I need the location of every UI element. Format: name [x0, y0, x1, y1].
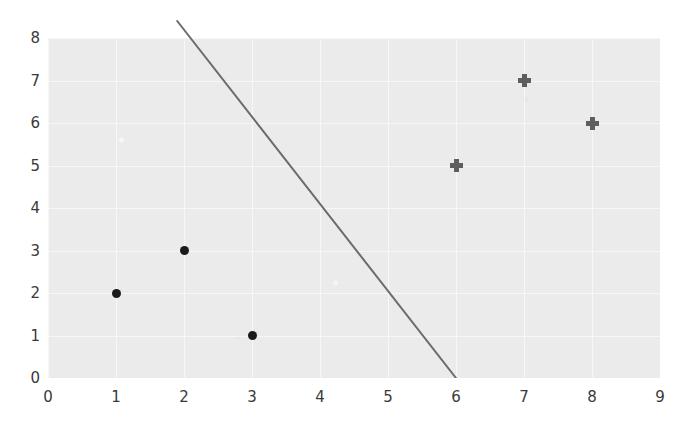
- x-tick-label: 0: [43, 390, 53, 405]
- gridline-vertical: [456, 38, 457, 378]
- gridline-horizontal: [48, 251, 660, 252]
- x-tick-label: 6: [451, 390, 461, 405]
- gridline-horizontal: [48, 81, 660, 82]
- y-tick-label: 3: [30, 243, 40, 258]
- gridline-vertical: [592, 38, 593, 378]
- gridline-horizontal: [48, 38, 660, 39]
- data-point-circle: [248, 331, 257, 340]
- y-tick-label: 8: [30, 31, 40, 46]
- x-tick-label: 4: [315, 390, 325, 405]
- data-point-plus: [586, 117, 599, 130]
- y-tick-label: 5: [30, 158, 40, 173]
- gridline-horizontal: [48, 293, 660, 294]
- x-tick-label: 2: [179, 390, 189, 405]
- chart-figure: 012345678 0123456789: [0, 0, 691, 421]
- x-tick-label: 5: [383, 390, 393, 405]
- data-point-plus: [518, 74, 531, 87]
- data-point-plus: [450, 159, 463, 172]
- x-tick-label: 1: [111, 390, 121, 405]
- y-tick-label: 4: [30, 201, 40, 216]
- gridline-vertical: [48, 38, 49, 378]
- y-tick-label: 2: [30, 286, 40, 301]
- y-axis-tick-labels: 012345678: [0, 0, 40, 421]
- y-tick-label: 7: [30, 73, 40, 88]
- gridline-horizontal: [48, 336, 660, 337]
- gridline-horizontal: [48, 166, 660, 167]
- y-tick-label: 1: [30, 328, 40, 343]
- gridline-horizontal: [48, 208, 660, 209]
- x-tick-label: 8: [587, 390, 597, 405]
- x-tick-label: 3: [247, 390, 257, 405]
- data-point-circle: [180, 246, 189, 255]
- gridline-vertical: [184, 38, 185, 378]
- data-point-circle: [112, 289, 121, 298]
- gridline-vertical: [388, 38, 389, 378]
- x-axis-tick-labels: 0123456789: [0, 390, 691, 410]
- gridline-vertical: [116, 38, 117, 378]
- x-tick-label: 9: [655, 390, 665, 405]
- y-tick-label: 0: [30, 371, 40, 386]
- gridline-vertical: [524, 38, 525, 378]
- gridline-vertical: [252, 38, 253, 378]
- gridline-horizontal: [48, 123, 660, 124]
- y-tick-label: 6: [30, 116, 40, 131]
- x-tick-label: 7: [519, 390, 529, 405]
- gridline-vertical: [320, 38, 321, 378]
- plot-area: [48, 38, 660, 378]
